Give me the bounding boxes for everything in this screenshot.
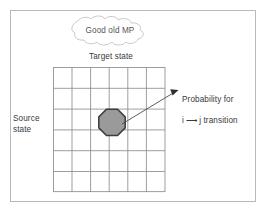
source-state-axis-label: Source state [13, 114, 53, 135]
transition-probability-marker [99, 109, 125, 135]
annotation-arrow [122, 89, 179, 124]
diagram-canvas: Good old MP Target state Source state Pr… [0, 0, 268, 216]
probability-annotation: Probability for i ⟶ j transition [182, 84, 266, 126]
cloud-callout-label: Good old MP [72, 26, 148, 37]
annotation-line-2-suffix: j transition [197, 116, 238, 125]
target-state-axis-label: Target state [56, 52, 166, 63]
annotation-line-1: Probability for [182, 95, 234, 104]
right-arrow-icon: ⟶ [186, 116, 197, 125]
